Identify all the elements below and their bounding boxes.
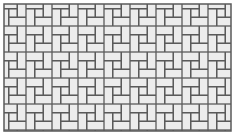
tile-field	[4, 4, 231, 131]
brick-pattern-svg	[0, 0, 234, 135]
tiling-figure	[0, 0, 234, 135]
